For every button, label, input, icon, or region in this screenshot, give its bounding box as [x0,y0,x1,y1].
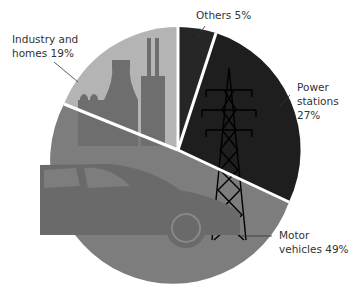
label-others: Others 5% [196,8,251,22]
label-industry: Industry and homes 19% [12,32,78,60]
label-power: Power stations 27% [297,80,339,122]
label-motor: Motor vehicles 49% [279,228,349,256]
